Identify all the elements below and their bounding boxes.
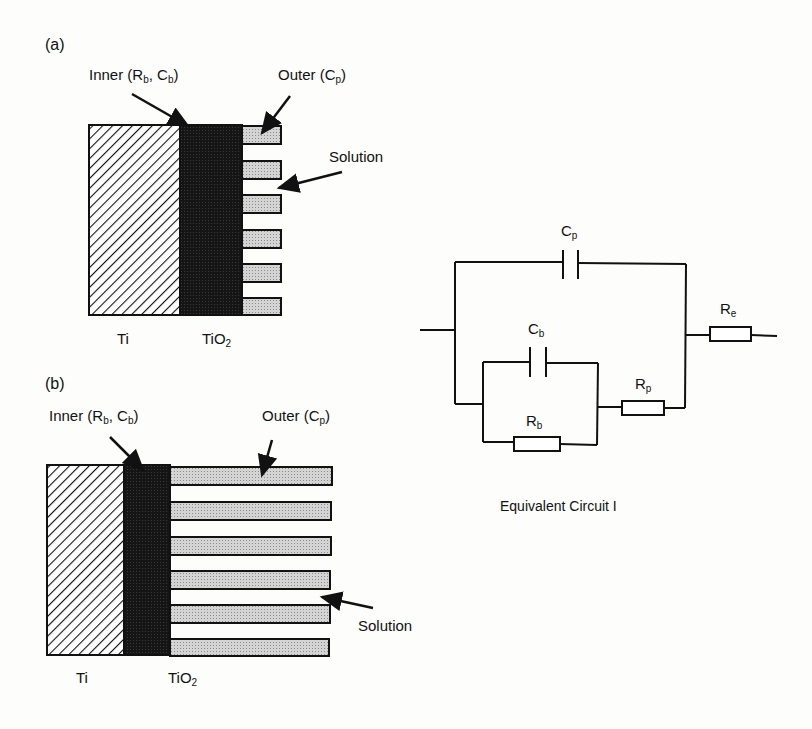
inner-arrow-a xyxy=(132,94,188,126)
ti-substrate-a xyxy=(89,125,180,315)
outer-pores-a xyxy=(242,126,281,315)
re-label: Re xyxy=(720,300,736,319)
panel-a-structure xyxy=(89,94,342,315)
panel-b-tag: (b) xyxy=(45,375,65,393)
inner-layer-a xyxy=(180,125,242,315)
rp-label: Rp xyxy=(635,375,651,394)
solution-arrow-a xyxy=(279,172,342,188)
panel-b-outer-label: Outer (Cp) xyxy=(262,407,330,426)
panel-a-tag: (a) xyxy=(45,36,65,54)
panel-b-tio2-label: TiO2 xyxy=(168,669,197,688)
rb-resistor xyxy=(514,437,560,451)
rp-resistor xyxy=(622,401,664,415)
panel-b-inner-label: Inner (Rb, Cb) xyxy=(49,407,138,426)
panel-b-ti-label: Ti xyxy=(76,669,88,686)
panel-b-structure xyxy=(47,437,373,656)
ti-substrate-b xyxy=(47,465,124,655)
panel-a-inner-label: Inner (Rb, Cb) xyxy=(89,66,178,85)
panel-a-ti-label: Ti xyxy=(117,330,129,347)
panel-a-solution-label: Solution xyxy=(329,148,383,165)
panel-a-outer-label: Outer (Cp) xyxy=(278,66,346,85)
circuit-caption: Equivalent Circuit I xyxy=(500,498,617,514)
equivalent-circuit xyxy=(420,250,777,451)
re-resistor xyxy=(710,327,751,341)
panel-b-solution-label: Solution xyxy=(358,617,412,634)
outer-pores-b xyxy=(170,467,332,656)
cb-label: Cb xyxy=(528,320,544,339)
inner-layer-b xyxy=(124,465,170,655)
cp-label: Cp xyxy=(561,222,577,241)
rb-label: Rb xyxy=(526,412,542,431)
panel-a-tio2-label: TiO2 xyxy=(202,330,231,349)
